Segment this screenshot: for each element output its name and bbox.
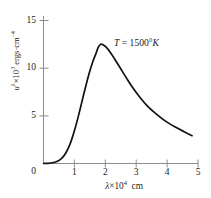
x-tick-label-3: 3 [126,168,146,178]
y-axis-title-symbol: u [11,86,21,90]
x-axis-title-unit: cm [132,181,143,191]
y-axis-title-exponent: 3 [10,67,16,70]
annotation-scale: K [153,37,159,48]
y-tick-label-0: 0 [14,167,36,177]
x-tick-label-2: 2 [95,168,115,178]
x-tick-label-4: 4 [157,168,177,178]
x-axis-title-exponent: 4 [124,179,127,186]
blackbody-spectrum-figure: 15 10 5 0 1 2 3 4 5 uλ×103 ergs·cm−4 λ×1… [0,0,211,198]
y-axis-title-unit: ergs·cm [11,37,21,65]
x-tick-label-5: 5 [188,168,208,178]
annotation-value: 1500 [130,37,149,48]
annotation-equals: = [122,37,127,48]
y-axis-title: uλ×103 ergs·cm−4 [11,1,20,121]
y-axis-title-unit-exponent: −4 [10,31,16,37]
y-axis-title-times: × [11,78,21,83]
x-axis-title-base: 10 [114,181,123,191]
x-tick-label-1: 1 [64,168,84,178]
y-axis-title-base: 10 [11,70,21,79]
curve-annotation-temperature: T = 1500°K [114,38,159,48]
annotation-symbol: T [114,37,119,48]
x-axis-title: λ×104 cm [42,180,206,191]
data-curve-planck-1500k [44,44,193,163]
